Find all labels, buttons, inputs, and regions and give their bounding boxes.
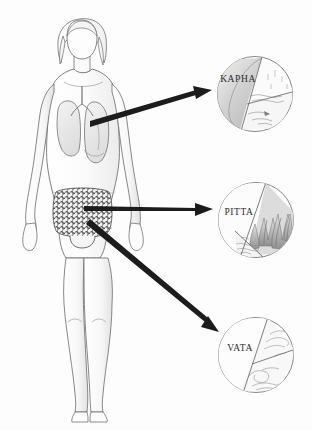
dosha-label-kapha: KAPHA <box>220 74 256 84</box>
dosha-circle-pitta[interactable]: PITTA <box>218 182 296 258</box>
foot-right <box>90 412 107 422</box>
dosha-label-pitta: PITTA <box>224 207 253 217</box>
hand-right <box>129 223 143 251</box>
foot-left <box>72 412 88 422</box>
arrow-abdomen-to-pitta <box>84 206 196 211</box>
dosha-circle-kapha[interactable]: KAPHA <box>216 57 296 132</box>
arrow-abdomen-to-pitta-head <box>195 203 213 216</box>
diagram-canvas: KAPHA <box>0 0 312 430</box>
leg-right <box>84 258 112 412</box>
diagram-svg: KAPHA <box>0 0 312 430</box>
intestine-mass <box>53 188 112 237</box>
dosha-label-vata: VATA <box>227 343 253 353</box>
arrow-chest-to-kapha-head <box>193 86 212 99</box>
dosha-circle-vata[interactable]: VATA <box>218 317 296 393</box>
hand-left <box>23 223 37 251</box>
lung-left <box>57 101 80 156</box>
